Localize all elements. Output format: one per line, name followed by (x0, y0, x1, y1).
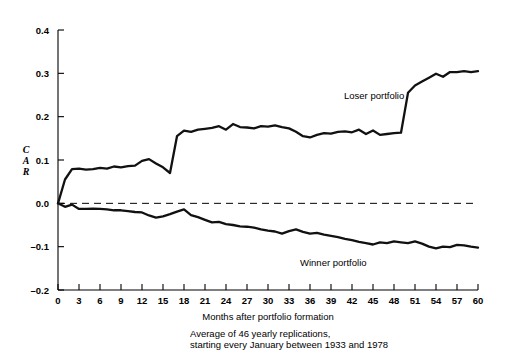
x-tick-label: 12 (137, 295, 148, 306)
x-tick-label: 21 (200, 295, 211, 306)
loser-portfolio-label: Loser portfolio (344, 90, 404, 101)
figure-container: 0.40.30.20.10.0–0.1–0.2 0369121518212427… (0, 0, 512, 353)
x-tick-label: 15 (158, 295, 169, 306)
x-tick-label: 39 (326, 295, 337, 306)
x-tick-label: 60 (473, 295, 484, 306)
car-letter-r: R (22, 166, 30, 177)
x-tick-label: 3 (76, 295, 81, 306)
x-tick-label: 33 (284, 295, 295, 306)
x-tick-label: 51 (410, 295, 421, 306)
x-tick-label: 24 (221, 295, 232, 306)
y-axis-title-car: C A R (22, 144, 30, 177)
x-tick-label: 54 (431, 295, 442, 306)
x-axis-title: Months after portfolio formation (202, 311, 333, 322)
x-tick-label: 45 (368, 295, 379, 306)
y-tick-label: –0.2 (31, 285, 50, 296)
car-letter-c: C (23, 144, 30, 155)
x-tick-label: 18 (179, 295, 190, 306)
caption-line-2: starting every January between 1933 and … (190, 339, 388, 350)
x-tick-label: 42 (347, 295, 358, 306)
x-tick-label: 30 (263, 295, 274, 306)
x-tick-label: 57 (452, 295, 463, 306)
car-line-chart: 0.40.30.20.10.0–0.1–0.2 0369121518212427… (0, 0, 512, 353)
x-tick-label: 48 (389, 295, 400, 306)
y-tick-label: 0.3 (36, 68, 49, 79)
y-tick-label: 0.0 (36, 198, 49, 209)
winner-portfolio-label: Winner portfolio (300, 257, 367, 268)
car-letter-a: A (22, 155, 30, 166)
x-tick-label: 9 (118, 295, 123, 306)
y-tick-label: –0.1 (31, 241, 50, 252)
caption-line-1: Average of 46 yearly replications, (190, 328, 330, 339)
x-tick-label: 6 (97, 295, 102, 306)
y-tick-label: 0.2 (36, 111, 49, 122)
x-tick-label: 36 (305, 295, 316, 306)
x-tick-label: 0 (55, 295, 60, 306)
y-tick-label: 0.1 (36, 155, 50, 166)
x-tick-label: 27 (242, 295, 253, 306)
y-tick-label: 0.4 (36, 25, 50, 36)
